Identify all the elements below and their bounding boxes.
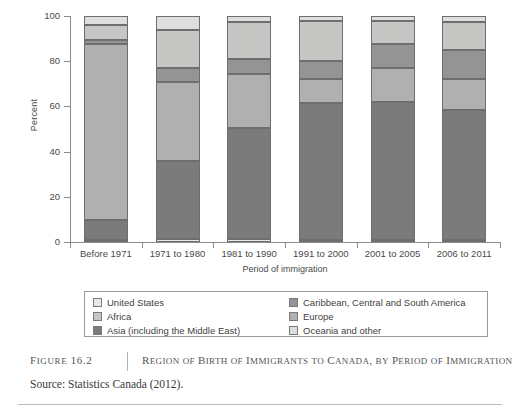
bar-segment[interactable] bbox=[442, 22, 486, 51]
bar-segment[interactable] bbox=[156, 239, 200, 242]
legend-item-label: United States bbox=[107, 297, 164, 308]
y-tick-label: 80 bbox=[32, 55, 60, 66]
bar-stack[interactable] bbox=[156, 16, 200, 242]
legend-column-right: Caribbean, Central and South AmericaEuro… bbox=[289, 296, 466, 338]
x-tick-label: 2001 to 2005 bbox=[357, 248, 429, 259]
x-axis-title: Period of immigration bbox=[70, 264, 500, 274]
bar-segment[interactable] bbox=[442, 240, 486, 242]
x-tick-mark bbox=[500, 242, 501, 248]
legend-item-label: Caribbean, Central and South America bbox=[303, 297, 466, 308]
legend-item[interactable]: Europe bbox=[289, 310, 466, 323]
bar-segment[interactable] bbox=[84, 220, 128, 240]
bar-segment[interactable] bbox=[299, 16, 343, 21]
bar-group bbox=[70, 16, 500, 242]
bar-segment[interactable] bbox=[371, 68, 415, 102]
x-tick-label: Before 1971 bbox=[70, 248, 142, 259]
bar-segment[interactable] bbox=[299, 103, 343, 240]
bar-stack[interactable] bbox=[442, 16, 486, 242]
bar-segment[interactable] bbox=[227, 239, 271, 242]
legend-item-label: Africa bbox=[107, 311, 131, 322]
bar-segment[interactable] bbox=[299, 240, 343, 242]
caption-divider bbox=[127, 352, 128, 371]
bar-stack[interactable] bbox=[84, 16, 128, 242]
legend-swatch bbox=[289, 312, 298, 321]
bar-segment[interactable] bbox=[442, 50, 486, 79]
y-tick-label: 60 bbox=[32, 100, 60, 111]
figure-caption: FIGURE 16.2 REGION OF BIRTH OF IMMIGRANT… bbox=[30, 352, 500, 374]
bar-segment[interactable] bbox=[84, 44, 128, 220]
y-tick-label: 40 bbox=[32, 146, 60, 157]
bar-segment[interactable] bbox=[442, 79, 486, 110]
chart-plot-area: Percent 020406080100 Before 19711971 to … bbox=[0, 0, 519, 285]
bar-segment[interactable] bbox=[84, 16, 128, 25]
y-tick-label: 0 bbox=[32, 236, 60, 247]
page-divider bbox=[18, 404, 502, 405]
legend-item[interactable]: Caribbean, Central and South America bbox=[289, 296, 466, 309]
legend-item[interactable]: Asia (including the Middle East) bbox=[93, 324, 240, 337]
bar-segment[interactable] bbox=[371, 21, 415, 45]
legend-swatch bbox=[93, 326, 102, 335]
bar-stack[interactable] bbox=[227, 16, 271, 242]
bar-segment[interactable] bbox=[299, 21, 343, 62]
bar-stack[interactable] bbox=[299, 16, 343, 242]
figure-number: FIGURE 16.2 bbox=[30, 354, 92, 366]
bar-segment[interactable] bbox=[227, 74, 271, 128]
x-tick-label: 1981 to 1990 bbox=[213, 248, 285, 259]
legend-swatch bbox=[289, 326, 298, 335]
x-tick-label: 2006 to 2011 bbox=[428, 248, 500, 259]
y-tick-label: 100 bbox=[32, 10, 60, 21]
legend-item[interactable]: United States bbox=[93, 296, 240, 309]
bar-segment[interactable] bbox=[84, 40, 128, 43]
bar-segment[interactable] bbox=[299, 61, 343, 79]
bar-segment[interactable] bbox=[156, 16, 200, 30]
legend-swatch bbox=[289, 298, 298, 307]
legend-item-label: Asia (including the Middle East) bbox=[107, 325, 240, 336]
chart-legend: United StatesAfricaAsia (including the M… bbox=[84, 291, 488, 337]
y-axis-title: Percent bbox=[29, 75, 39, 155]
figure-source: Source: Statistics Canada (2012). bbox=[30, 378, 183, 390]
legend-item-label: Oceania and other bbox=[303, 325, 381, 336]
bar-segment[interactable] bbox=[227, 128, 271, 239]
bar-segment[interactable] bbox=[371, 44, 415, 68]
legend-item-label: Europe bbox=[303, 311, 334, 322]
legend-swatch bbox=[93, 298, 102, 307]
bar-segment[interactable] bbox=[442, 16, 486, 22]
y-tick-label: 20 bbox=[32, 191, 60, 202]
bar-stack[interactable] bbox=[371, 16, 415, 242]
legend-swatch bbox=[93, 312, 102, 321]
figure-title: REGION OF BIRTH OF IMMIGRANTS TO CANADA,… bbox=[142, 354, 512, 366]
bar-segment[interactable] bbox=[84, 240, 128, 242]
x-tick-label: 1971 to 1980 bbox=[142, 248, 214, 259]
bar-segment[interactable] bbox=[442, 110, 486, 240]
legend-item[interactable]: Africa bbox=[93, 310, 240, 323]
bar-segment[interactable] bbox=[371, 102, 415, 240]
figure-container: Percent 020406080100 Before 19711971 to … bbox=[0, 0, 519, 417]
bar-segment[interactable] bbox=[156, 82, 200, 161]
bar-segment[interactable] bbox=[156, 161, 200, 239]
bar-segment[interactable] bbox=[227, 16, 271, 22]
bar-segment[interactable] bbox=[84, 25, 128, 40]
bar-segment[interactable] bbox=[299, 79, 343, 103]
legend-column-left: United StatesAfricaAsia (including the M… bbox=[93, 296, 240, 338]
bar-segment[interactable] bbox=[156, 68, 200, 82]
bar-segment[interactable] bbox=[371, 240, 415, 242]
legend-item[interactable]: Oceania and other bbox=[289, 324, 466, 337]
bar-segment[interactable] bbox=[227, 59, 271, 74]
x-tick-label: 1991 to 2000 bbox=[285, 248, 357, 259]
bar-segment[interactable] bbox=[227, 22, 271, 59]
x-axis-tick-labels: Before 19711971 to 19801981 to 19901991 … bbox=[70, 248, 500, 264]
bar-segment[interactable] bbox=[156, 30, 200, 69]
bar-segment[interactable] bbox=[371, 16, 415, 21]
